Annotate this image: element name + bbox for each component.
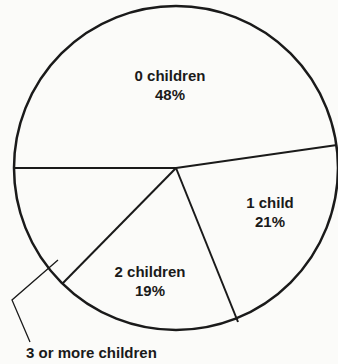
slice-name: 0 children xyxy=(110,66,230,85)
slice-percent: 48% xyxy=(110,85,230,104)
pie-chart xyxy=(0,0,338,364)
slice-name: 1 child xyxy=(230,193,310,212)
slice-label-1-child: 1 child 21% xyxy=(230,193,310,231)
slice-percent: 21% xyxy=(230,212,310,231)
slice-label-3-plus-children: 3 or more children xyxy=(26,343,206,362)
slice-name: 2 children xyxy=(100,262,200,281)
slice-percent: 19% xyxy=(100,281,200,300)
slice-label-0-children: 0 children 48% xyxy=(110,66,230,104)
slice-label-2-children: 2 children 19% xyxy=(100,262,200,300)
slice-name: 3 or more children xyxy=(26,343,206,362)
slice-divider-right xyxy=(176,145,337,168)
